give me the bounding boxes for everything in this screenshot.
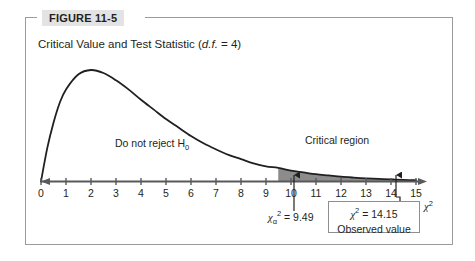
chi-square-density-curve <box>41 70 416 182</box>
tick-label: 9 <box>263 187 269 199</box>
tick-label: 2 <box>88 187 94 199</box>
observed-value-text: = 14.15 <box>359 208 397 220</box>
tick-label: 11 <box>311 187 322 199</box>
tick-label: 8 <box>238 187 244 199</box>
tick-label: 10 <box>285 187 297 199</box>
tick-label: 4 <box>138 187 144 199</box>
tick-label: 7 <box>213 187 219 199</box>
do-not-reject-subscript: 0 <box>185 143 189 152</box>
tick-label: 1 <box>63 187 69 199</box>
critical-region-label: Critical region <box>305 134 369 146</box>
x-axis-title: χ2 <box>423 199 433 212</box>
observed-value-equation: χ2 = 14.15 <box>329 204 419 222</box>
tick-label: 0 <box>38 187 44 199</box>
critical-value-annotation: χα2 = 9.49 <box>267 209 314 226</box>
tick-label: 13 <box>360 187 372 199</box>
tick-label: 3 <box>113 187 119 199</box>
tick-label: 15 <box>410 187 422 199</box>
x-axis-title-exponent: 2 <box>429 199 433 208</box>
tick-label: 6 <box>188 187 194 199</box>
tick-label: 12 <box>335 187 347 199</box>
tick-label: 14 <box>385 187 397 199</box>
figure-container: FIGURE 11-5 Critical Value and Test Stat… <box>0 0 475 261</box>
critical-value-subscript: α <box>273 217 278 226</box>
critical-value-text: = 9.49 <box>281 211 314 223</box>
x-axis-tick-labels: 0 1 2 3 4 5 6 7 8 9 10 11 12 13 14 15 <box>38 187 422 199</box>
do-not-reject-label: Do not reject H0 <box>115 137 189 152</box>
do-not-reject-text: Do not reject H <box>115 137 185 149</box>
observed-value-box: χ2 = 14.15 Observed value <box>328 201 420 233</box>
tick-label: 5 <box>163 187 169 199</box>
observed-value-caption: Observed value <box>329 222 419 236</box>
